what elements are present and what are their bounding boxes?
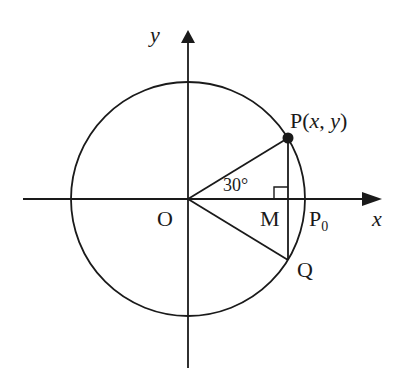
point-p0-label: P0	[309, 206, 328, 234]
angle-label: 30°	[223, 175, 248, 195]
y-axis-arrow-icon	[181, 30, 195, 43]
right-angle-mark	[274, 187, 288, 199]
origin-label: O	[157, 206, 173, 231]
point-p-dot	[283, 133, 294, 144]
point-q-label: Q	[297, 257, 313, 282]
point-p-label: P(x, y)	[290, 108, 347, 133]
y-axis-label: y	[148, 22, 160, 47]
point-m-label: M	[260, 206, 280, 231]
x-axis-label: x	[371, 206, 382, 231]
x-axis-arrow-icon	[362, 192, 382, 206]
unit-circle-diagram: y x P(x, y) O 30° M P0 Q	[0, 0, 405, 378]
